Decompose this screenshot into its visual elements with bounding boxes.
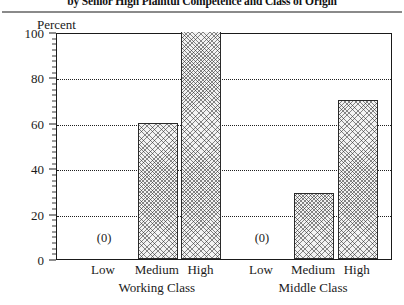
x-tick-label-working-class-medium: Medium: [135, 262, 179, 278]
y-tick-mark-20: [49, 214, 56, 215]
zero-value-label-working-class-low: (0): [97, 231, 112, 246]
bar-middle-class-medium: [294, 193, 334, 259]
x-tick-label-working-class-high: High: [187, 262, 213, 278]
y-tick-mark-80: [49, 78, 56, 79]
group-label-middle-class: Middle Class: [279, 280, 348, 296]
chart-title: by Senior High Plaintul Competence and C…: [0, 0, 404, 7]
y-tick-mark-60: [49, 123, 56, 124]
gridline-80: [57, 79, 391, 80]
bar-working-class-high: [181, 32, 221, 259]
chart-title-container: by Senior High Plaintul Competence and C…: [0, 0, 404, 11]
x-tick-label-middle-class-medium: Medium: [291, 262, 335, 278]
x-axis: LowMediumHighWorking ClassLowMediumHighM…: [56, 262, 392, 305]
y-axis: 020406080100: [0, 33, 56, 260]
y-tick-mark-100: [49, 33, 56, 34]
y-tick-mark-40: [49, 169, 56, 170]
x-tick-label-middle-class-high: High: [344, 262, 370, 278]
plot-area: (0)(0): [56, 33, 392, 260]
y-tick-label-20: 20: [31, 208, 44, 221]
bar-middle-class-high: [338, 100, 378, 259]
y-tick-label-0: 0: [38, 254, 45, 267]
y-tick-label-40: 40: [31, 163, 44, 176]
x-tick-label-middle-class-low: Low: [249, 262, 273, 278]
title-divider: [2, 11, 402, 13]
y-tick-label-60: 60: [31, 117, 44, 130]
x-tick-label-working-class-low: Low: [91, 262, 115, 278]
zero-value-label-middle-class-low: (0): [255, 231, 270, 246]
bar-working-class-medium: [138, 123, 178, 259]
y-tick-label-100: 100: [25, 27, 45, 40]
plot-inner: (0)(0): [57, 34, 391, 259]
y-tick-label-80: 80: [31, 72, 44, 85]
y-tick-mark-0: [49, 260, 56, 261]
group-label-working-class: Working Class: [119, 280, 196, 296]
